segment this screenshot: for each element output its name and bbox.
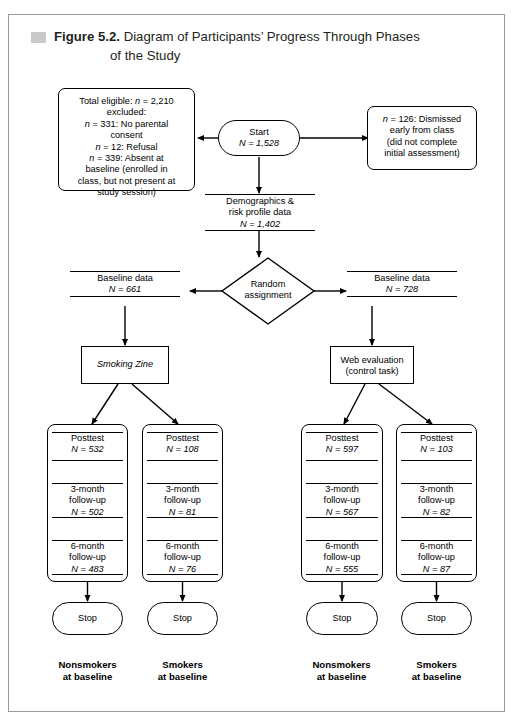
- column-bottom-label: Nonsmokers at baseline: [294, 659, 389, 682]
- followup-3month-line2: follow-up: [147, 495, 218, 506]
- followup-6month-n: N = 555: [306, 564, 378, 575]
- followup-3month-node: 3-month follow-up N = 502: [52, 483, 123, 518]
- followup-6month-line2: follow-up: [147, 552, 218, 563]
- excluded-line2: excluded:: [62, 107, 191, 118]
- followup-6month-line2: follow-up: [52, 552, 123, 563]
- dismissed-line3: (did not complete: [368, 137, 476, 148]
- followup-6month-node: 6-month follow-up N = 87: [401, 540, 472, 575]
- excluded-line8: class, but not present at: [62, 176, 191, 187]
- start-n: N = 1,528: [219, 138, 299, 149]
- bottom-label-line1: Smokers: [135, 659, 230, 671]
- baseline-left-n: N = 661: [70, 284, 180, 295]
- control-box: Web evaluation (control task): [330, 346, 414, 384]
- bottom-label-line2: at baseline: [389, 671, 484, 683]
- bottom-label-line2: at baseline: [40, 671, 135, 683]
- stop-label: Stop: [173, 613, 192, 624]
- demographics-node: Demographics & risk profile data N = 1,4…: [205, 194, 315, 231]
- followup-6month-line2: follow-up: [401, 552, 472, 563]
- stop-label: Stop: [78, 613, 97, 624]
- followup-6month-node: 6-month follow-up N = 483: [52, 540, 123, 575]
- stop-node: Stop: [52, 602, 123, 635]
- followup-6month-line1: 6-month: [401, 541, 472, 552]
- excluded-line4: consent: [62, 130, 191, 141]
- excluded-line6: n = 339: Absent at: [62, 153, 191, 164]
- posttest-n: N = 103: [401, 444, 472, 455]
- baseline-right-n: N = 728: [347, 284, 457, 295]
- bottom-label-line1: Nonsmokers: [294, 659, 389, 671]
- stop-node: Stop: [401, 602, 472, 635]
- followup-3month-node: 3-month follow-up N = 82: [401, 483, 472, 518]
- posttest-label: Posttest: [147, 433, 218, 444]
- followup-3month-line2: follow-up: [52, 495, 123, 506]
- followup-3month-line1: 3-month: [52, 484, 123, 495]
- followup-6month-line2: follow-up: [306, 552, 378, 563]
- posttest-label: Posttest: [52, 433, 123, 444]
- dismissed-box: n = 126: Dismissed early from class (did…: [367, 106, 477, 170]
- followup-3month-node: 3-month follow-up N = 81: [147, 483, 218, 518]
- excluded-line5: n = 12: Refusal: [62, 142, 191, 153]
- excluded-line7: baseline (enrolled in: [62, 164, 191, 175]
- intervention-box: Smoking Zine: [81, 346, 169, 384]
- column-bottom-label: Smokers at baseline: [135, 659, 230, 682]
- random-line1: Random: [230, 279, 306, 290]
- control-line2: (control task): [331, 366, 413, 377]
- followup-3month-line1: 3-month: [147, 484, 218, 495]
- dismissed-line2: early from class: [368, 125, 476, 136]
- followup-6month-line1: 6-month: [147, 541, 218, 552]
- bottom-label-line2: at baseline: [294, 671, 389, 683]
- figure-caption: Figure 5.2. Diagram of Participants’ Pro…: [54, 27, 484, 46]
- baseline-right-label: Baseline data: [347, 273, 457, 284]
- stop-label: Stop: [427, 613, 446, 624]
- posttest-n: N = 532: [52, 444, 123, 455]
- stop-node: Stop: [306, 602, 378, 635]
- posttest-label: Posttest: [401, 433, 472, 444]
- figure-title-line1: Diagram of Participants’ Progress Throug…: [124, 29, 420, 44]
- posttest-n: N = 108: [147, 444, 218, 455]
- followup-6month-n: N = 87: [401, 564, 472, 575]
- posttest-node: Posttest N = 597: [306, 432, 378, 461]
- followup-3month-n: N = 81: [147, 507, 218, 518]
- figure-title-line2: of the Study: [110, 46, 180, 65]
- posttest-label: Posttest: [306, 433, 378, 444]
- followup-3month-line2: follow-up: [401, 495, 472, 506]
- figure-number: Figure 5.2.: [54, 29, 120, 44]
- start-node: Start N = 1,528: [218, 120, 300, 156]
- followup-3month-node: 3-month follow-up N = 567: [306, 483, 378, 518]
- baseline-left-node: Baseline data N = 661: [70, 271, 180, 297]
- bottom-label-line2: at baseline: [135, 671, 230, 683]
- posttest-node: Posttest N = 103: [401, 432, 472, 461]
- demographics-line2: risk profile data: [205, 207, 315, 218]
- followup-6month-node: 6-month follow-up N = 76: [147, 540, 218, 575]
- stop-node: Stop: [147, 602, 218, 635]
- posttest-node: Posttest N = 532: [52, 432, 123, 461]
- followup-3month-n: N = 82: [401, 507, 472, 518]
- baseline-left-label: Baseline data: [70, 273, 180, 284]
- followup-3month-line2: follow-up: [306, 495, 378, 506]
- followup-3month-n: N = 567: [306, 507, 378, 518]
- start-label: Start: [219, 127, 299, 138]
- posttest-node: Posttest N = 108: [147, 432, 218, 461]
- random-assignment-label: Random assignment: [230, 279, 306, 305]
- demographics-line1: Demographics &: [205, 196, 315, 207]
- figure-container: Figure 5.2. Diagram of Participants’ Pro…: [0, 0, 521, 723]
- random-line2: assignment: [230, 290, 306, 301]
- followup-6month-line1: 6-month: [52, 541, 123, 552]
- control-line1: Web evaluation: [331, 355, 413, 366]
- followup-3month-n: N = 502: [52, 507, 123, 518]
- followup-6month-n: N = 483: [52, 564, 123, 575]
- followup-6month-line1: 6-month: [306, 541, 378, 552]
- followup-6month-node: 6-month follow-up N = 555: [306, 540, 378, 575]
- demographics-n: N = 1,402: [205, 219, 315, 230]
- excluded-line3: n = 331: No parental: [62, 119, 191, 130]
- followup-3month-line1: 3-month: [306, 484, 378, 495]
- caption-marker-icon: [31, 32, 46, 43]
- bottom-label-line1: Smokers: [389, 659, 484, 671]
- dismissed-line1: n = 126: Dismissed: [368, 114, 476, 125]
- bottom-label-line1: Nonsmokers: [40, 659, 135, 671]
- excluded-box: Total eligible: n = 2,210 excluded: n = …: [58, 88, 195, 191]
- followup-3month-line1: 3-month: [401, 484, 472, 495]
- column-bottom-label: Nonsmokers at baseline: [40, 659, 135, 682]
- dismissed-line4: initial assessment): [368, 148, 476, 159]
- excluded-line9: study session): [62, 187, 191, 198]
- baseline-right-node: Baseline data N = 728: [347, 271, 457, 297]
